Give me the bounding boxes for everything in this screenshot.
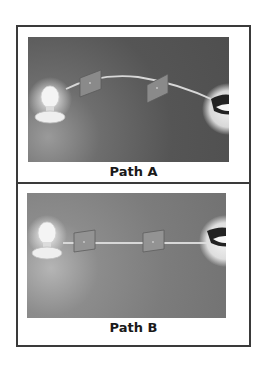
caption-path-b: Path B <box>16 320 251 335</box>
screen-2-icon <box>143 230 164 252</box>
eye-icon <box>202 83 229 135</box>
caption-path-a: Path A <box>16 164 251 179</box>
light-bulb-icon <box>27 215 67 259</box>
screen-1-icon <box>74 230 95 252</box>
panel-a-illustration <box>28 37 229 162</box>
screen-1-icon <box>80 70 101 97</box>
light-bulb-icon <box>28 77 72 123</box>
panel-b-illustration <box>27 193 226 318</box>
eye-icon <box>199 215 226 267</box>
panel-divider <box>16 182 251 184</box>
